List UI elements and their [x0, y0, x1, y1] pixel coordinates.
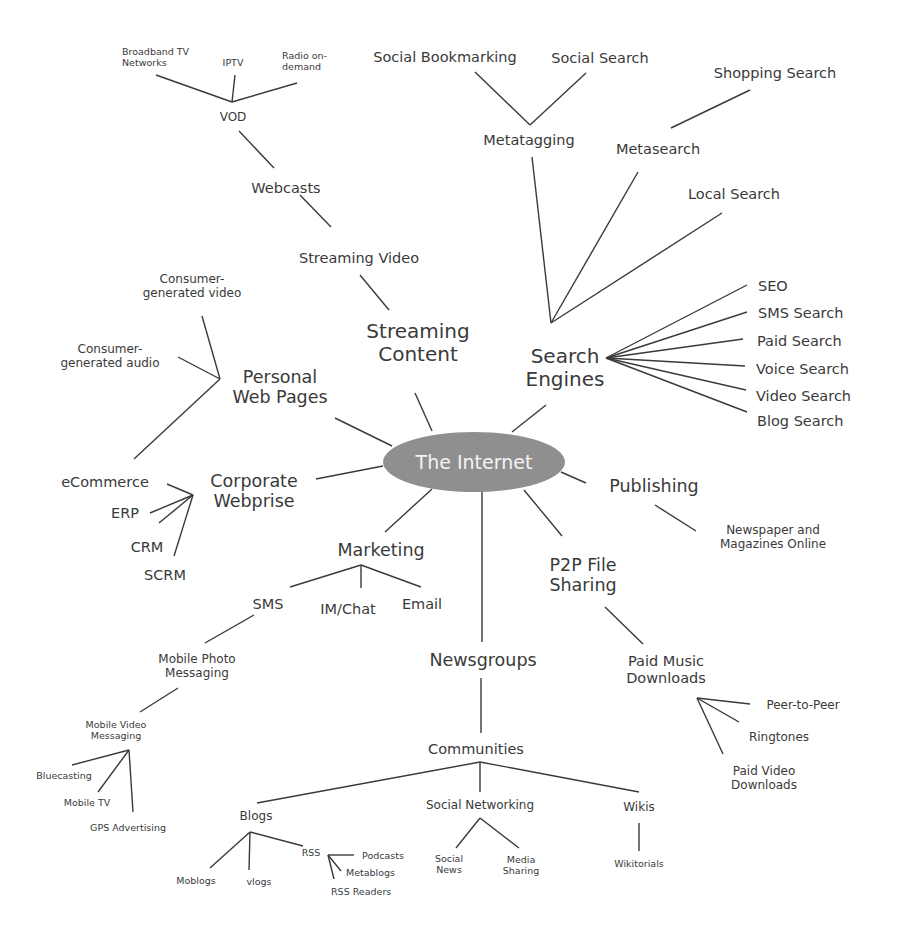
node-social-bookmarking: Social Bookmarking [373, 49, 516, 66]
node-peer-to-peer: Peer-to-Peer [766, 699, 839, 713]
node-social-networking: Social Networking [426, 799, 534, 813]
node-metasearch: Metasearch [616, 141, 700, 158]
node-email: Email [402, 596, 442, 613]
node-ringtones: Ringtones [749, 731, 809, 745]
internet-mind-map: The Internet Streaming Content Streaming… [0, 0, 904, 940]
node-search-engines: Search Engines [526, 345, 605, 391]
center-node-the-internet: The Internet [383, 432, 565, 492]
node-consumer-video: Consumer- generated video [143, 273, 242, 301]
node-local-search: Local Search [688, 186, 780, 203]
node-radio-on-demand: Radio on- demand [282, 51, 327, 73]
node-social-search: Social Search [551, 50, 648, 67]
node-vod: VOD [220, 111, 247, 125]
node-newsgroups: Newsgroups [429, 650, 536, 670]
node-publishing: Publishing [609, 476, 698, 496]
node-consumer-audio: Consumer- generated audio [60, 343, 159, 371]
node-social-news: Social News [435, 854, 463, 876]
node-communities: Communities [428, 741, 524, 758]
node-vlogs: vlogs [246, 877, 271, 888]
node-erp: ERP [111, 505, 139, 522]
node-paid-music-downloads: Paid Music Downloads [626, 653, 706, 686]
node-ecommerce: eCommerce [61, 474, 149, 491]
node-shopping-search: Shopping Search [714, 65, 837, 82]
node-sms: SMS [253, 596, 284, 613]
node-p2p-file-sharing: P2P File Sharing [549, 555, 616, 595]
node-scrm: SCRM [144, 567, 186, 584]
node-mobile-tv: Mobile TV [64, 798, 110, 809]
node-mobile-video-messaging: Mobile Video Messaging [86, 720, 147, 742]
center-label: The Internet [416, 451, 533, 473]
node-blog-search: Blog Search [757, 413, 843, 430]
node-blogs: Blogs [240, 810, 273, 824]
node-streaming-content: Streaming Content [366, 320, 469, 366]
node-crm: CRM [131, 539, 164, 556]
node-marketing: Marketing [337, 540, 424, 560]
node-personal-web-pages: Personal Web Pages [232, 367, 327, 407]
node-video-search: Video Search [756, 388, 851, 405]
node-rss-readers: RSS Readers [331, 887, 391, 898]
node-voice-search: Voice Search [756, 361, 849, 378]
node-broadband-tv: Broadband TV Networks [122, 47, 189, 69]
node-corporate-webprise: Corporate Webprise [210, 471, 297, 511]
node-gps-advertising: GPS Advertising [90, 823, 166, 834]
node-seo: SEO [758, 278, 788, 295]
node-sms-search: SMS Search [758, 305, 843, 322]
node-paid-video-downloads: Paid Video Downloads [731, 765, 797, 793]
node-mobile-photo-messaging: Mobile Photo Messaging [158, 653, 235, 681]
node-newspaper-magazines: Newspaper and Magazines Online [720, 524, 826, 552]
node-media-sharing: Media Sharing [503, 855, 539, 877]
node-metatagging: Metatagging [483, 132, 574, 149]
node-podcasts: Podcasts [362, 851, 404, 862]
node-iptv: IPTV [223, 58, 244, 69]
node-wikitorials: Wikitorials [614, 859, 663, 870]
node-bluecasting: Bluecasting [36, 771, 91, 782]
node-streaming-video: Streaming Video [299, 250, 419, 267]
node-paid-search: Paid Search [757, 333, 842, 350]
node-im-chat: IM/Chat [320, 601, 376, 618]
node-moblogs: Moblogs [176, 876, 215, 887]
node-rss: RSS [302, 848, 321, 859]
node-webcasts: Webcasts [251, 180, 320, 197]
node-metablogs: Metablogs [346, 868, 395, 879]
node-wikis: Wikis [623, 801, 654, 815]
